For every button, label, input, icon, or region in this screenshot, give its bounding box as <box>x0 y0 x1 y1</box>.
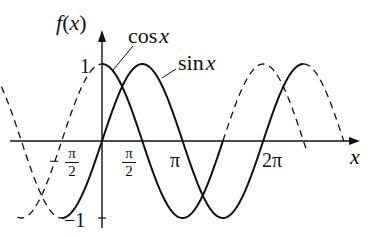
x-tick-label-two-pi: 2π <box>262 150 282 170</box>
y-axis-arrow-icon <box>98 30 106 42</box>
cos-leader-line <box>113 46 133 70</box>
plot-canvas <box>0 0 373 237</box>
sin-curve-dashed-right <box>304 64 344 141</box>
y-axis-label: f(x) <box>56 12 87 34</box>
x-tick-label-minus-pi-half: π2 <box>65 146 79 179</box>
cos-label: cosx <box>128 25 169 47</box>
x-tick-label-pi: π <box>170 150 180 170</box>
x-tick-label-pi-half: π2 <box>122 146 136 179</box>
cos-curve-dashed-right <box>223 64 308 153</box>
sin-leader-line <box>162 69 176 78</box>
y-tick-label-one: 1 <box>80 56 90 76</box>
y-tick-label-minus-one: −1 <box>64 210 85 230</box>
x-tick-minus-pi-half-sign: − <box>49 152 59 170</box>
sin-label: sinx <box>178 52 215 74</box>
sin-cos-diagram: f(x) x cosx sinx 1 −1 − π2 π2 π 2π <box>0 0 373 237</box>
x-axis-label: x <box>350 146 360 168</box>
